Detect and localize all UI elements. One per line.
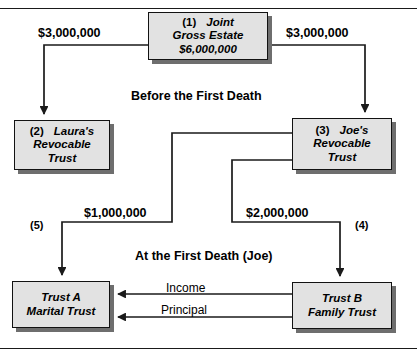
- node-lauras-revocable-trust: (2)Laura's Revocable Trust: [14, 120, 110, 170]
- step-marker-four: (4): [355, 219, 368, 231]
- amount-label-to-trust-b: $2,000,000: [246, 206, 309, 220]
- connector-joint-to-laura: [44, 45, 148, 114]
- section-title-before-first-death: Before the First Death: [131, 89, 262, 103]
- step-marker-five: (5): [30, 219, 43, 231]
- node-joe-first-row: (3)Joe's: [315, 124, 368, 138]
- node-joint-first-row: (1)Joint: [182, 16, 234, 30]
- connector-joint-to-joe: [268, 45, 365, 112]
- node-joe-line1: Joe's: [340, 124, 369, 136]
- estate-plan-diagram: (1)Joint Gross Estate $6,000,000 (2)Laur…: [0, 0, 417, 356]
- node-trust-a-line1: Trust A: [41, 291, 81, 305]
- node-joe-line3: Trust: [328, 151, 357, 165]
- node-trust-a-marital-trust: Trust A Marital Trust: [12, 281, 110, 328]
- flow-label-income: Income: [166, 281, 205, 295]
- node-joint-index: (1): [182, 16, 196, 28]
- node-laura-index: (2): [30, 125, 44, 137]
- amount-label-to-trust-a: $1,000,000: [84, 206, 147, 220]
- node-trust-b-line2: Family Trust: [308, 306, 376, 320]
- node-laura-first-row: (2)Laura's: [30, 125, 95, 139]
- node-laura-line2: Revocable: [33, 138, 91, 152]
- node-trust-b-family-trust: Trust B Family Trust: [292, 282, 392, 329]
- node-joint-line2: Gross Estate: [173, 29, 244, 43]
- node-trust-a-line2: Marital Trust: [27, 305, 96, 319]
- node-joes-revocable-trust: (3)Joe's Revocable Trust: [292, 118, 392, 170]
- node-laura-line1: Laura's: [54, 125, 94, 137]
- section-title-at-first-death: At the First Death (Joe): [135, 249, 273, 263]
- node-laura-line3: Trust: [48, 152, 77, 166]
- flow-label-principal: Principal: [161, 303, 207, 317]
- node-joe-line2: Revocable: [313, 137, 371, 151]
- node-trust-b-line1: Trust B: [322, 292, 362, 306]
- node-joe-index: (3): [315, 124, 329, 136]
- node-joint-gross-estate: (1)Joint Gross Estate $6,000,000: [148, 12, 268, 60]
- node-joint-line3: $6,000,000: [179, 43, 237, 57]
- amount-label-to-joe: $3,000,000: [286, 26, 349, 40]
- node-joint-line1: Joint: [206, 16, 233, 28]
- amount-label-to-laura: $3,000,000: [38, 26, 101, 40]
